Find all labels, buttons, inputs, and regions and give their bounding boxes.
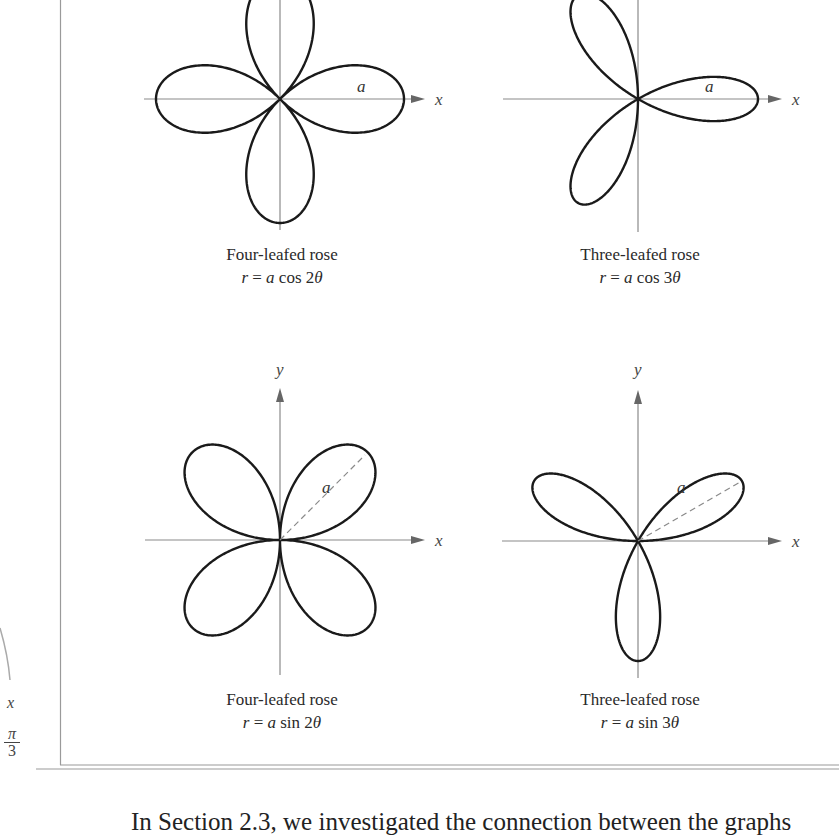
eq-lhs: r [241,268,248,287]
caption-four-leaf-cos: Four-leafed rose r = a cos 2θ [162,243,402,289]
eq-mult: 3 [664,268,673,287]
eq-fn: cos [279,268,302,287]
petal-length-label: a [677,478,686,497]
dashed-radius [280,455,365,540]
petal-length-label: a [705,77,714,96]
eq-coef: a [626,713,635,732]
x-axis-label: x [434,90,443,109]
fraction-numerator: π [4,726,20,743]
caption-title: Three-leafed rose [520,688,760,711]
eq-sign: = [252,268,262,287]
eq-var: θ [671,713,679,732]
caption-equation: r = a sin 3θ [520,711,760,734]
y-axis-arrow-icon [276,388,284,402]
x-axis-arrow-icon [768,95,782,103]
x-axis-label: x [791,532,800,551]
caption-three-leaf-sin: Three-leafed rose r = a sin 3θ [520,688,760,734]
panel-four-leaf-cos: xa [144,0,443,230]
panel-three-leaf-cos: xa [503,0,800,232]
x-axis-arrow-icon [768,537,782,545]
eq-coef: a [268,713,277,732]
rose-curve [571,0,759,205]
caption-four-leaf-sin: Four-leafed rose r = a sin 2θ [162,688,402,734]
eq-mult: 2 [306,268,315,287]
caption-title: Three-leafed rose [520,243,760,266]
eq-sign: = [610,268,620,287]
caption-title: Four-leafed rose [162,243,402,266]
dashed-radius [638,483,739,541]
eq-sign: = [254,713,264,732]
x-axis-label: x [791,90,800,109]
panel-four-leaf-sin: xya [145,360,443,675]
eq-lhs: r [601,713,608,732]
margin-fraction: π 3 [4,726,20,759]
margin-x-label: x [7,694,14,712]
x-axis-arrow-icon [411,95,425,103]
panel-three-leaf-sin: xya [502,360,800,678]
eq-sign: = [612,713,622,732]
caption-equation: r = a sin 2θ [162,711,402,734]
caption-equation: r = a cos 3θ [520,266,760,289]
x-axis-label: x [434,531,443,550]
eq-coef: a [266,268,275,287]
caption-equation: r = a cos 2θ [162,266,402,289]
x-axis-arrow-icon [411,536,425,544]
eq-fn: sin [280,713,300,732]
caption-three-leaf-cos: Three-leafed rose r = a cos 3θ [520,243,760,289]
eq-fn: sin [638,713,658,732]
petal-length-label: a [357,77,366,96]
eq-var: θ [314,268,322,287]
eq-mult: 3 [662,713,671,732]
fraction-denominator: 3 [4,743,20,759]
y-axis-label: y [274,360,284,379]
eq-var: θ [672,268,680,287]
eq-var: θ [313,713,321,732]
eq-fn: cos [637,268,660,287]
petal-length-label: a [322,478,331,497]
y-axis-arrow-icon [634,390,642,404]
caption-title: Four-leafed rose [162,688,402,711]
eq-lhs: r [599,268,606,287]
margin-arc [0,628,10,680]
eq-coef: a [624,268,633,287]
eq-lhs: r [243,713,250,732]
y-axis-label: y [632,360,642,379]
eq-mult: 2 [304,713,313,732]
body-paragraph: In Section 2.3, we investigated the conn… [131,808,791,836]
